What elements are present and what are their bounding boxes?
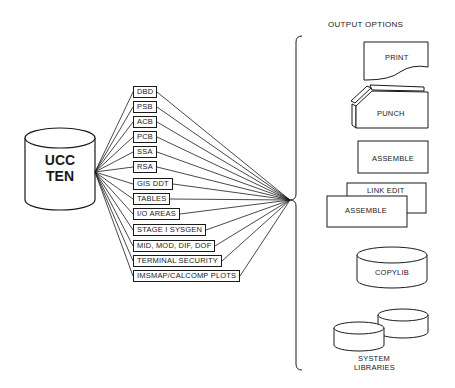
input-box: MID, MOD, DIF, DOF [133,240,215,252]
input-connector-lines [95,92,133,276]
input-box: PSB [133,101,157,113]
input-box: GIS DDT [133,178,173,190]
punch-cards-icon [351,85,428,128]
input-box: IMSMAP/CALCOMP PLOTS [133,270,240,282]
link-edit-label: LINK EDIT [367,186,405,195]
input-box: PCB [133,131,157,143]
output-brace [290,36,302,370]
ten-label: TEN [24,168,96,184]
copylib-label: COPYLIB [375,268,409,277]
system-label: SYSTEM [358,354,390,363]
input-box: TERMINAL SECURITY [133,255,222,267]
ucc-ten-label: UCC TEN [24,152,96,184]
input-box: DBD [133,86,157,98]
punch-label: PUNCH [377,109,405,118]
ucc-label: UCC [24,152,96,168]
input-box: STAGE I SYSGEN [133,224,206,236]
output-options-title: OUTPUT OPTIONS [328,20,403,29]
assemble-label: ASSEMBLE [372,154,414,163]
assemble-label-2: ASSEMBLE [345,206,387,215]
libraries-label: LIBRARIES [354,363,395,372]
input-box: SSA [133,146,157,158]
input-box: TABLES [133,193,170,205]
input-box: RSA [133,161,157,173]
print-label: PRINT [385,53,409,62]
input-box: ACB [133,116,157,128]
input-box: I/O AREAS [133,208,180,220]
system-libraries-database-icon [334,309,428,351]
